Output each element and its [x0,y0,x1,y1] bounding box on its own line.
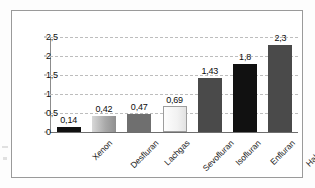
scan-artifact [2,146,8,148]
bar[interactable]: 0,47 [127,114,151,132]
bar[interactable]: 0,42 [92,116,116,132]
bar[interactable]: 1,8 [233,64,257,132]
x-axis-category-label: Xenon [90,138,114,162]
x-axis-category-label: Desfluran [128,138,160,170]
bar-group[interactable]: 2,3 [268,37,292,132]
x-axis-category-label: Sevofluran [200,138,235,173]
x-axis-category-label: Enfluran [268,138,297,167]
bar-value-label: 0,47 [131,102,148,112]
scanned-page: 00,511,522,5 0,140,420,470,691,431,82,3 … [0,0,315,188]
x-axis-category-label: Halothan [304,138,315,169]
bar[interactable]: 0,69 [163,106,187,132]
chart-frame: 00,511,522,5 0,140,420,470,691,431,82,3 … [11,10,303,178]
bar-value-label: 0,69 [166,95,183,105]
bar[interactable]: 2,3 [268,45,292,132]
x-axis-category-label: Isofluran [233,138,262,167]
bar-value-label: 0,14 [60,115,77,125]
bars-layer: 0,140,420,470,691,431,82,3 [51,37,298,132]
bar-group[interactable]: 0,42 [92,37,116,132]
bar-group[interactable]: 0,69 [163,37,187,132]
plot-area: 00,511,522,5 0,140,420,470,691,431,82,3 [46,37,298,138]
scan-artifact [3,157,7,160]
x-axis-line [50,132,298,133]
bar-value-label: 1,8 [239,52,251,62]
bar-value-label: 0,42 [96,104,113,114]
x-axis-category-label: Lachgas [162,138,191,167]
bar-group[interactable]: 0,14 [57,37,81,132]
bar[interactable]: 1,43 [198,78,222,132]
bar-group[interactable]: 1,8 [233,37,257,132]
bar[interactable]: 0,14 [57,127,81,132]
bar-value-label: 1,43 [201,66,218,76]
bar-group[interactable]: 0,47 [127,37,151,132]
x-axis-category-labels: XenonDesfluranLachgasSevofluranIsofluran… [51,138,298,186]
bar-value-label: 2,3 [274,33,286,43]
bar-group[interactable]: 1,43 [198,37,222,132]
